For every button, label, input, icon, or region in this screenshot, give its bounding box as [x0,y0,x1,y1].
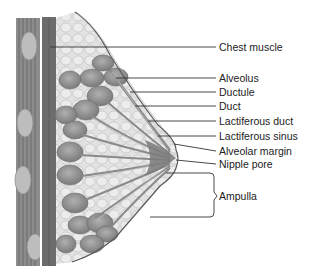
label-lactiferous-duct: Lactiferous duct [219,115,293,127]
rib-column [15,18,43,266]
rib-2 [17,109,33,137]
chest-muscle-band [42,17,56,266]
label-alveolar-margin: Alveolar margin [219,145,292,157]
label-nipple-pore: Nipple pore [219,158,273,170]
rib-3 [15,166,31,194]
label-lactiferous-sinus: Lactiferous sinus [219,130,298,142]
ampulla-bracket [210,173,217,217]
label-ductule: Ductule [219,86,255,98]
label-duct: Duct [219,100,241,112]
rib-1 [21,32,37,60]
label-alveolus: Alveolus [219,72,259,84]
label-chest-muscle: Chest muscle [219,41,283,53]
label-ampulla: Ampulla [219,190,257,202]
